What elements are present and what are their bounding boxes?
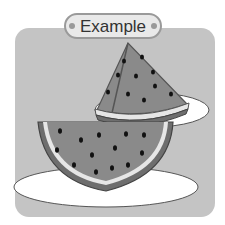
bullet-dot-icon xyxy=(151,23,157,29)
example-card: Example xyxy=(0,0,225,225)
watermelon-wedge-icon xyxy=(95,43,189,125)
example-label: Example xyxy=(64,13,162,39)
example-label-text: Example xyxy=(80,18,146,35)
bullet-dot-icon xyxy=(69,23,75,29)
